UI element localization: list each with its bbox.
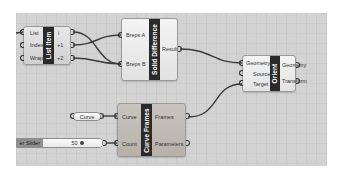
slider-track[interactable]: 50 xyxy=(43,139,102,147)
input-list[interactable]: List xyxy=(30,30,39,37)
node-title: List Item xyxy=(45,32,52,60)
output-geometry[interactable]: Geometry xyxy=(282,62,306,69)
curve-param[interactable]: Curve xyxy=(73,112,101,121)
input-wrap[interactable]: Wrap xyxy=(30,55,43,62)
output-parameters[interactable]: Parameters xyxy=(155,141,183,148)
node-title-bar[interactable]: Curve Frames xyxy=(141,104,152,156)
input-source[interactable]: Source xyxy=(253,71,270,78)
input-grip-icon[interactable] xyxy=(239,70,243,76)
curve-param-label: Curve xyxy=(80,114,95,120)
output-frames[interactable]: Frames xyxy=(155,114,174,121)
node-title-bar[interactable]: Solid Difference xyxy=(149,19,160,80)
output-plus1[interactable]: +1 xyxy=(57,42,63,49)
input-grip-icon[interactable] xyxy=(20,42,24,48)
input-grip-icon[interactable] xyxy=(118,61,122,67)
input-breps-b[interactable]: Breps B xyxy=(126,61,146,68)
input-grip-icon[interactable] xyxy=(114,140,118,146)
node-title-bar[interactable]: Orient xyxy=(270,56,280,91)
output-transform[interactable]: Transform xyxy=(282,78,307,85)
input-breps-a[interactable]: Breps A xyxy=(126,32,145,39)
node-title: Orient xyxy=(272,64,279,84)
input-grip-icon[interactable] xyxy=(239,60,243,66)
input-grip-icon[interactable] xyxy=(118,32,122,38)
solid-difference-node[interactable]: Breps A Breps B Solid Difference Result xyxy=(121,18,178,81)
input-count[interactable]: Count xyxy=(122,141,137,148)
input-target[interactable]: Target xyxy=(253,81,268,88)
input-geometry[interactable]: Geometry xyxy=(246,60,270,67)
input-curve[interactable]: Curve xyxy=(122,114,137,121)
input-grip-icon[interactable] xyxy=(70,113,74,119)
number-slider[interactable]: er Slider 50 xyxy=(16,138,103,148)
input-grip-icon[interactable] xyxy=(239,80,243,86)
input-grip-icon[interactable] xyxy=(20,55,24,61)
node-title: Curve Frames xyxy=(143,108,150,153)
slider-label: er Slider xyxy=(17,139,43,147)
node-title: Solid Difference xyxy=(151,24,158,75)
input-grip-icon[interactable] xyxy=(20,29,24,35)
input-grip-icon[interactable] xyxy=(114,113,118,119)
list-item-node[interactable]: List Index Wrap List Item i +1 +2 xyxy=(23,26,71,65)
slider-knob-icon[interactable] xyxy=(80,141,84,145)
output-plus2[interactable]: +2 xyxy=(57,55,63,62)
output-result[interactable]: Result xyxy=(162,46,178,53)
slider-value: 50 xyxy=(71,140,77,146)
output-i[interactable]: i xyxy=(58,30,59,37)
curve-frames-node[interactable]: Curve Count Curve Frames Frames Paramete… xyxy=(117,103,186,157)
node-title-bar[interactable]: List Item xyxy=(43,27,54,64)
orient-node[interactable]: Geometry Source Target Orient Geometry T… xyxy=(242,55,296,92)
input-index[interactable]: Index xyxy=(30,42,43,49)
